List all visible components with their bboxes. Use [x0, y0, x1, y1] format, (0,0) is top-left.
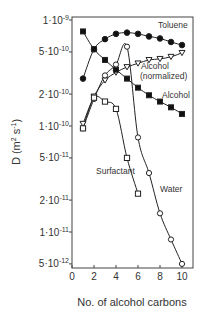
marker-surfactant: [80, 126, 85, 131]
marker-surfactant: [113, 106, 118, 111]
y-tick-label: 1·10-9: [43, 14, 69, 26]
curve-surfactant: [83, 96, 138, 194]
marker-toluene: [146, 34, 152, 40]
marker-alcohol: [92, 47, 97, 52]
y-tick-label: 1·10-10: [39, 120, 69, 132]
marker-surfactant: [91, 95, 96, 100]
marker-alcohol: [103, 57, 108, 62]
x-tick-label: 0: [69, 271, 75, 282]
marker-water: [102, 73, 107, 78]
marker-toluene: [124, 30, 130, 36]
marker-toluene: [80, 76, 86, 82]
series-labels: Toluene Alcohol (normalized) Alcohol Wat…: [96, 20, 190, 194]
y-axis-title: D (m2 s-1): [10, 119, 22, 165]
x-tick-label: 4: [113, 271, 119, 282]
label-alcohol-normalized-line1: Alcohol: [141, 61, 169, 71]
x-tick-label: 8: [157, 271, 163, 282]
marker-alcohol: [147, 93, 152, 98]
y-tick-label: 5·10-12: [39, 257, 69, 269]
label-alcohol: Alcohol: [162, 90, 190, 100]
diffusion-chart: 02468101·10-95·10-102·10-101·10-105·10-1…: [0, 0, 203, 318]
marker-water: [135, 135, 140, 140]
y-tick-label: 5·10-11: [39, 151, 69, 163]
marker-surfactant: [102, 99, 107, 104]
marker-toluene: [113, 31, 119, 37]
marker-water: [113, 62, 118, 67]
plot-frame: [72, 17, 193, 268]
marker-toluene: [168, 39, 174, 45]
marker-alcohol: [169, 105, 174, 110]
marker-toluene: [135, 31, 141, 37]
x-tick-label: 10: [176, 271, 188, 282]
marker-alcohol: [81, 29, 86, 34]
marker-water: [157, 211, 162, 216]
y-tick-label: 2·10-10: [39, 88, 69, 100]
x-axis-title: No. of alcohol carbons: [77, 296, 187, 308]
label-surfactant: Surfactant: [96, 166, 135, 176]
marker-water: [124, 44, 129, 49]
x-tick-label: 6: [135, 271, 141, 282]
marker-alcohol: [114, 67, 119, 72]
marker-water: [146, 170, 151, 175]
label-water: Water: [160, 184, 183, 194]
y-tick-label: 5·10-10: [39, 45, 69, 57]
marker-alcohol: [136, 85, 141, 90]
marker-alcohol-normalized: [124, 65, 130, 70]
marker-toluene: [102, 36, 108, 42]
marker-water: [168, 237, 173, 242]
marker-toluene: [157, 36, 163, 42]
label-alcohol-normalized-line2: (normalized): [140, 71, 187, 81]
y-tick-label: 2·10-11: [39, 194, 69, 206]
marker-alcohol: [180, 111, 185, 116]
marker-surfactant: [124, 155, 129, 160]
y-tick-label: 1·10-11: [39, 226, 69, 238]
marker-alcohol: [125, 76, 130, 81]
marker-toluene: [179, 42, 185, 48]
x-tick-label: 2: [91, 271, 97, 282]
marker-surfactant: [135, 191, 140, 196]
marker-alcohol-normalized: [179, 50, 185, 55]
label-toluene: Toluene: [158, 20, 188, 30]
marker-water: [179, 261, 184, 266]
